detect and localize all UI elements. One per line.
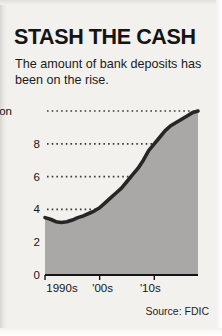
paper-edge-top bbox=[0, 0, 222, 5]
y-tick-label-4: 4 bbox=[34, 203, 41, 215]
y-axis-tick-labels: 02468$10 trillion bbox=[0, 105, 41, 281]
chart-headline: STASH THE CASH bbox=[14, 27, 214, 49]
x-tick-label-1990s: 1990s bbox=[46, 282, 78, 294]
source-note: Source: FDIC bbox=[145, 305, 209, 317]
x-tick-label-'00s: '00s bbox=[92, 282, 113, 294]
chart-subhead: The amount of bank deposits has been on … bbox=[15, 56, 211, 88]
data-area-fill bbox=[45, 111, 198, 275]
paper-edge-bottom bbox=[0, 328, 222, 336]
y-tick-label-10: $10 trillion bbox=[0, 105, 12, 117]
y-tick-label-0: 0 bbox=[34, 269, 40, 281]
x-axis-tick-labels: 1990s'00s'10s bbox=[46, 282, 161, 294]
series-area-bank-deposits bbox=[45, 111, 198, 275]
y-tick-label-2: 2 bbox=[34, 236, 40, 248]
area-chart-svg: 02468$10 trillion 1990s'00s'10s bbox=[0, 96, 222, 296]
y-tick-label-6: 6 bbox=[34, 171, 40, 183]
chart-area: 02468$10 trillion 1990s'00s'10s bbox=[0, 96, 222, 296]
y-tick-label-8: 8 bbox=[34, 138, 40, 150]
x-tick-label-'10s: '10s bbox=[140, 282, 161, 294]
infographic-figure: STASH THE CASH The amount of bank deposi… bbox=[0, 0, 222, 336]
